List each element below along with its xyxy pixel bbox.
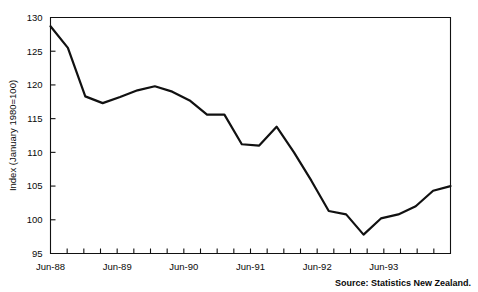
svg-text:130: 130 [27, 12, 43, 23]
svg-text:110: 110 [27, 147, 42, 158]
svg-text:125: 125 [27, 46, 43, 57]
line-chart: 95100105110115120125130 Jun-88Jun-89Jun-… [0, 0, 478, 292]
svg-text:105: 105 [27, 180, 43, 191]
svg-text:Jun-91: Jun-91 [236, 261, 265, 272]
svg-text:95: 95 [32, 248, 43, 259]
chart-background [0, 0, 478, 292]
svg-text:Jun-92: Jun-92 [303, 261, 332, 272]
svg-text:Jun-88: Jun-88 [36, 261, 65, 272]
svg-text:Jun-89: Jun-89 [103, 261, 132, 272]
svg-text:Jun-90: Jun-90 [169, 261, 198, 272]
svg-text:Jun-93: Jun-93 [369, 261, 398, 272]
y-axis-title: Index (January 1980=100) [7, 80, 18, 191]
svg-text:120: 120 [27, 79, 43, 90]
chart-figure: 95100105110115120125130 Jun-88Jun-89Jun-… [0, 0, 478, 292]
source-note: Source: Statistics New Zealand. [335, 278, 471, 288]
svg-text:100: 100 [27, 214, 43, 225]
svg-text:115: 115 [27, 113, 42, 124]
